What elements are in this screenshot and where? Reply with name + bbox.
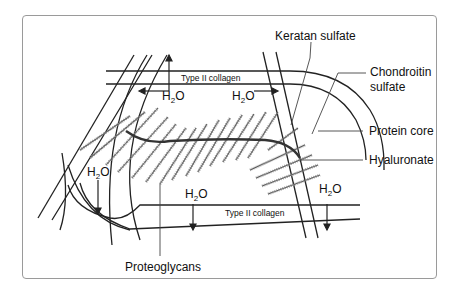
collagen-bottom-label: Type II collagen — [225, 208, 285, 218]
water-label-left: H2O — [87, 165, 109, 181]
water-label-bottom-right: H2O — [319, 182, 341, 198]
chondroitin-sulfate-label-line2: sulfate — [370, 80, 406, 94]
cartilage-matrix-diagram: Type II collagen Type II collagen — [0, 0, 459, 293]
protein-core-label: Protein core — [369, 124, 434, 138]
water-label-top-left: H2O — [162, 89, 184, 105]
chondroitin-sulfate-label-line1: Chondroitin — [370, 65, 431, 79]
proteoglycans-label: Proteoglycans — [125, 260, 201, 274]
collagen-fibril-top — [106, 71, 384, 170]
keratan-sulfate-label: Keratan sulfate — [275, 29, 356, 43]
gag-side-chains — [80, 108, 320, 194]
collagen-top-label: Type II collagen — [181, 73, 241, 83]
collagen-fibril-bottom — [68, 183, 360, 229]
water-label-top-right: H2O — [232, 89, 254, 105]
hyaluronate-label: Hyaluronate — [369, 153, 434, 167]
water-label-bottom-center: H2O — [185, 187, 207, 203]
